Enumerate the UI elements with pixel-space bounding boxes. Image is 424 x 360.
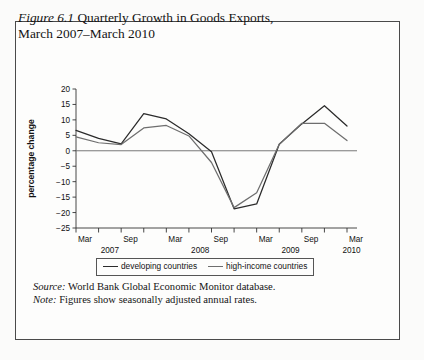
source-text: World Bank Global Economic Monitor datab… [66, 281, 276, 292]
x-axis-year-labels: 2007200820092010 [101, 246, 361, 255]
note-line: Note: Figures show seasonally adjusted a… [33, 294, 363, 307]
x-tick-label: Sep [304, 235, 319, 244]
y-axis-title: percentage change [26, 119, 36, 198]
data-series-group [76, 106, 347, 209]
source-label: Source: [33, 281, 66, 292]
x-axis-year-label: 2009 [281, 246, 300, 255]
y-tick-label: −5 [61, 162, 71, 171]
y-tick-label: −25 [56, 224, 70, 233]
figure-number: Figure 6.1 [18, 10, 74, 25]
chart-legend: developing countrieshigh-income countrie… [96, 258, 314, 276]
y-axis-ticks: 20151050−5−10−15−20−25 [56, 85, 76, 233]
x-tick-label: Sep [214, 235, 229, 244]
x-tick-label: Mar [349, 235, 363, 244]
figure-footnotes: Source: World Bank Global Economic Monit… [33, 281, 363, 306]
figure-caption: Figure 6.1 Quarterly Growth in Goods Exp… [18, 10, 363, 41]
y-tick-label: 20 [61, 85, 71, 94]
legend-label-developing: developing countries [121, 261, 197, 271]
note-label: Note: [33, 294, 57, 305]
x-axis-year-label: 2008 [191, 246, 210, 255]
x-tick-label: Mar [78, 235, 92, 244]
source-line: Source: World Bank Global Economic Monit… [33, 281, 363, 294]
series-line-high-income-countries [76, 123, 347, 207]
x-tick-label: Mar [259, 235, 273, 244]
legend-swatch-developing [103, 266, 118, 267]
legend-item-high-income: high-income countries [208, 261, 307, 272]
note-text: Figures show seasonally adjusted annual … [57, 294, 257, 305]
line-chart: 20151050−5−10−15−20−25 MarSepMarSepMarSe… [0, 58, 383, 258]
figure-title-line2: March 2007–March 2010 [18, 26, 155, 41]
series-line-developing-countries [76, 106, 347, 209]
y-tick-label: −10 [56, 178, 70, 187]
y-tick-label: −15 [56, 193, 70, 202]
figure-title-line1: Quarterly Growth in Goods Exports, [77, 10, 273, 25]
x-tick-label: Sep [123, 235, 138, 244]
legend-label-high-income: high-income countries [226, 261, 307, 271]
y-tick-label: 5 [65, 131, 70, 140]
y-tick-label: 10 [61, 116, 71, 125]
y-tick-label: −20 [56, 209, 70, 218]
x-axis-ticks: MarSepMarSepMarSepMar [76, 228, 363, 244]
legend-swatch-high-income [208, 266, 223, 267]
y-tick-label: 15 [61, 100, 71, 109]
x-tick-label: Mar [168, 235, 182, 244]
y-tick-label: 0 [65, 147, 70, 156]
x-axis-year-label: 2010 [342, 246, 361, 255]
figure-page: Figure 6.1 Quarterly Growth in Goods Exp… [0, 0, 424, 360]
legend-item-developing: developing countries [103, 261, 197, 272]
x-axis-year-label: 2007 [101, 246, 120, 255]
chart-plot-area: 20151050−5−10−15−20−25 MarSepMarSepMarSe… [0, 58, 383, 258]
